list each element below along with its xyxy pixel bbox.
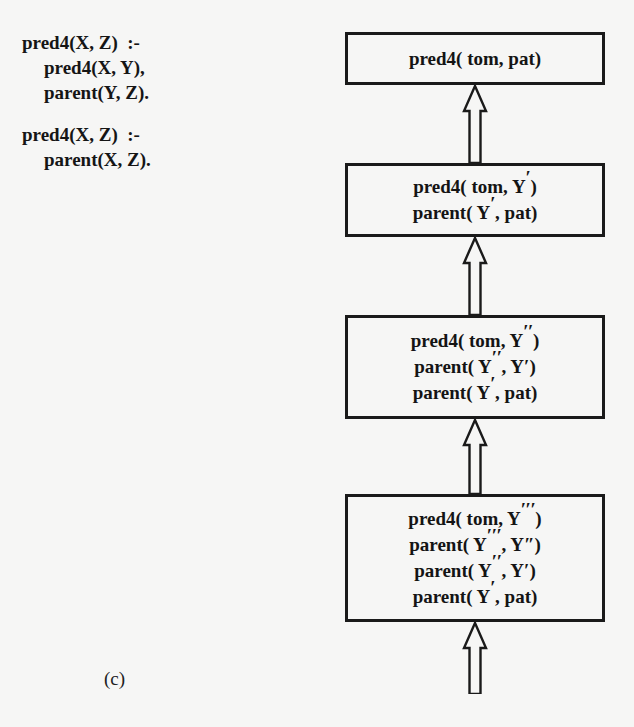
derivation-goal-stack: pred4( tom, pat)pred4( tom, Y′)parent( Y… — [345, 32, 605, 694]
clause-line: parent(X, Z). — [22, 147, 312, 172]
arrow-below-goal-4 — [345, 622, 605, 694]
goal-box: pred4( tom, Y′′)parent( Y′′, Y′)parent( … — [345, 315, 605, 419]
clause-line: pred4(X, Z) :- — [22, 30, 312, 55]
prime-mark: ′′′ — [487, 525, 502, 546]
goal-line: parent( Y′, pat) — [413, 584, 538, 610]
clause-line: parent(Y, Z). — [22, 80, 312, 105]
goal-box: pred4( tom, Y′)parent( Y′, pat) — [345, 163, 605, 237]
prime-mark: ′′ — [492, 551, 502, 572]
prime-mark: ′ — [490, 193, 495, 214]
derivation-arrow-icon — [462, 419, 488, 494]
derivation-arrow-icon — [462, 237, 488, 315]
clause-line: pred4(X, Y), — [22, 55, 312, 80]
program-clauses: pred4(X, Z) :-pred4(X, Y),parent(Y, Z).p… — [22, 30, 312, 189]
arrow-below-goal-2 — [345, 237, 605, 315]
prime-mark: ′ — [490, 577, 495, 598]
derivation-arrow-icon — [462, 622, 488, 694]
prime-mark: ′′′ — [521, 499, 536, 520]
goal-line: pred4( tom, pat) — [409, 46, 541, 72]
goal-line: parent( Y′, pat) — [413, 200, 538, 226]
prime-mark: ′ — [490, 373, 495, 394]
derivation-arrow-icon — [462, 85, 488, 163]
arrow-below-goal-1 — [345, 85, 605, 163]
goal-box: pred4( tom, pat) — [345, 32, 605, 85]
figure-caption: (c) — [104, 668, 125, 690]
program-clause: pred4(X, Z) :-pred4(X, Y),parent(Y, Z). — [22, 30, 312, 105]
goal-line: pred4( tom, Y′′′) — [408, 506, 541, 532]
arrow-below-goal-3 — [345, 419, 605, 494]
prime-mark: ′′ — [523, 321, 533, 342]
goal-line: pred4( tom, Y′) — [413, 174, 537, 200]
goal-line: pred4( tom, Y′′) — [411, 328, 539, 354]
clause-line: pred4(X, Z) :- — [22, 122, 312, 147]
prime-mark: ′′ — [492, 347, 502, 368]
goal-line: parent( Y′′, Y′) — [414, 354, 535, 380]
goal-line: parent( Y′′′, Y″) — [409, 532, 540, 558]
prime-mark: ′ — [526, 167, 531, 188]
program-clause: pred4(X, Z) :-parent(X, Z). — [22, 122, 312, 172]
goal-line: parent( Y′′, Y′) — [414, 558, 535, 584]
goal-box: pred4( tom, Y′′′)parent( Y′′′, Y″)parent… — [345, 494, 605, 622]
goal-line: parent( Y′, pat) — [413, 380, 538, 406]
